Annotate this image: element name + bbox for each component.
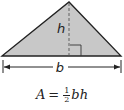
- formula-equals: =: [48, 87, 59, 102]
- formula-rhs: bh: [71, 87, 88, 102]
- formula-lhs: A: [36, 87, 45, 102]
- area-formula: A=12bh: [0, 84, 124, 106]
- height-label: h: [57, 21, 65, 36]
- formula-fraction: 12: [63, 87, 70, 104]
- triangle-diagram: h b: [0, 0, 124, 80]
- base-label: b: [56, 60, 64, 75]
- fraction-denominator: 2: [63, 96, 70, 104]
- arrow-left-icon: [4, 65, 10, 70]
- arrow-right-icon: [114, 65, 120, 70]
